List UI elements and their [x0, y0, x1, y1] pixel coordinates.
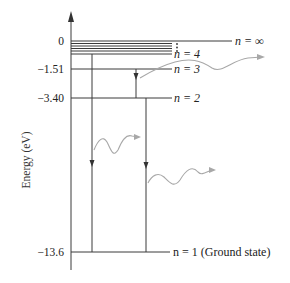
transitions: [90, 54, 149, 252]
level-label-n-1: n = 1 (Ground state): [173, 245, 270, 259]
photon-2-to-1-icon: [148, 169, 212, 184]
axis-title: Energy (eV): [20, 131, 33, 188]
photon-3-to-2-icon: [140, 57, 262, 78]
photon-3-to-2-arrowhead-icon: [257, 54, 265, 60]
level-label-n-3: n = 3: [174, 62, 200, 76]
energy-axis: [68, 11, 74, 270]
photon-4-to-1-icon: [94, 136, 138, 154]
transition-4-to-1-arrow-icon: [90, 160, 95, 167]
level-label-n-2: n = 2: [174, 91, 200, 105]
axis-arrow-icon: [68, 11, 74, 22]
transition-3-to-2-arrow-icon: [134, 73, 139, 80]
energy-label-n1: −13.6: [37, 246, 64, 258]
photon-2-to-1-arrowhead-icon: [209, 167, 216, 173]
energy-label-n2: −3.40: [37, 92, 64, 104]
transition-2-to-1-arrow-icon: [144, 162, 149, 169]
level-label-n-4: n = 4: [174, 47, 200, 61]
energy-level-diagram: Energy (eV) 0 −1.51 −3.40 −13.6 n = ∞ n …: [0, 0, 290, 283]
energy-label-n3: −1.51: [37, 63, 64, 75]
level-label-n-infinity: n = ∞: [235, 34, 264, 48]
photon-4-to-1-arrowhead-icon: [134, 134, 141, 140]
energy-label-0: 0: [58, 35, 64, 47]
